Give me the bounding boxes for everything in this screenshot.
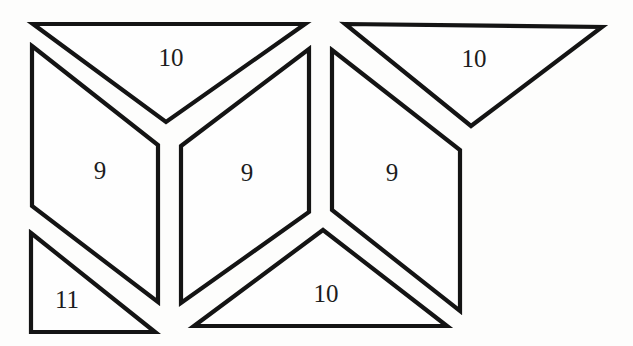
- figure-canvas: 10109991110: [0, 0, 633, 346]
- middle-parallelogram-label: 9: [241, 159, 254, 186]
- top-left-triangle-label: 10: [159, 44, 184, 71]
- bottom-middle-triangle-label: 10: [314, 280, 339, 307]
- right-parallelogram-label: 9: [386, 159, 399, 186]
- left-parallelogram-label: 9: [94, 157, 107, 184]
- top-right-triangle-label: 10: [462, 45, 487, 72]
- dissection-figure: 10109991110: [0, 0, 633, 346]
- bottom-left-triangle-label: 11: [55, 286, 79, 313]
